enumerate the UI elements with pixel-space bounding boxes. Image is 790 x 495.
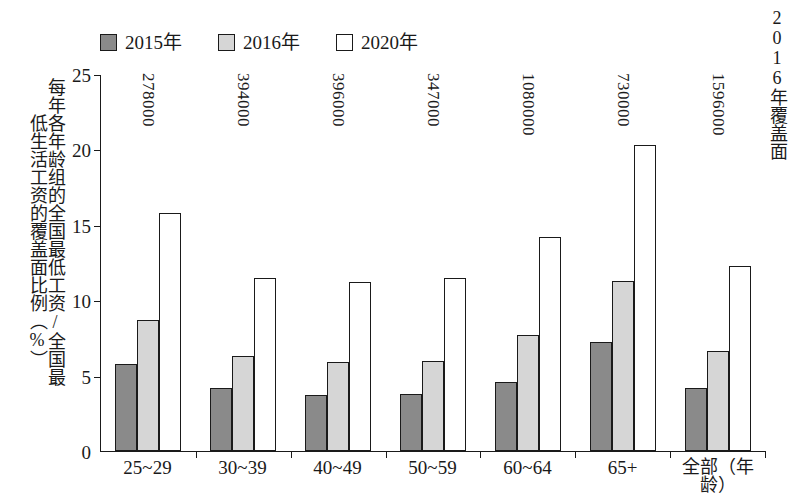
x-axis-tick-label: 40~49 <box>290 458 385 482</box>
x-axis-tick-mark <box>575 451 576 458</box>
bar-group: 1596000 <box>670 75 765 451</box>
bar-2020-25~29 <box>159 213 181 451</box>
y-axis-tick-mark <box>94 301 101 302</box>
group-annotation: 278000 <box>138 73 158 127</box>
bar-2015-全部（年龄） <box>685 388 707 451</box>
legend-swatch-icon-2020 <box>336 34 353 51</box>
bar-group: 1080000 <box>480 75 575 451</box>
bar-2020-全部（年龄） <box>729 266 751 451</box>
x-axis-tick-mark <box>196 451 197 458</box>
group-annotation: 1596000 <box>708 73 728 136</box>
chart-legend: 2015年 2016年 2020年 <box>100 33 418 52</box>
legend-label-2016: 2016年 <box>243 33 300 52</box>
top-right-annotation: 2016年覆盖面 <box>768 8 786 160</box>
bar-2016-60~64 <box>517 335 539 451</box>
y-axis-title-column-left: 低生活工资的覆盖面比例（%） <box>28 114 46 368</box>
bar-2015-30~39 <box>210 388 232 451</box>
y-axis-tick-mark <box>94 377 101 378</box>
group-annotation: 1080000 <box>518 73 538 136</box>
group-annotation: 396000 <box>328 73 348 127</box>
legend-item-2015: 2015年 <box>100 33 182 52</box>
bar-2016-30~39 <box>232 356 254 451</box>
x-axis-tick-label: 60~64 <box>480 458 575 482</box>
x-axis-tick-mark <box>670 451 671 458</box>
x-axis-tick-label: 全部（年龄） <box>670 458 765 482</box>
x-axis-tick-label: 30~39 <box>195 458 290 482</box>
bar-2016-25~29 <box>137 320 159 451</box>
group-annotation: 347000 <box>423 73 443 127</box>
y-axis-tick-labels: 0510152025 <box>55 60 91 466</box>
bar-2016-65+ <box>612 281 634 451</box>
y-axis-tick-label: 5 <box>82 367 92 386</box>
bar-2015-25~29 <box>115 364 137 451</box>
bar-2020-65+ <box>634 145 656 451</box>
bar-group: 730000 <box>575 75 670 451</box>
y-axis-tick-label: 10 <box>72 292 91 311</box>
x-axis-tick-label: 50~59 <box>385 458 480 482</box>
bar-2016-全部（年龄） <box>707 351 729 451</box>
bar-2020-40~49 <box>349 282 371 451</box>
y-axis-tick-mark <box>94 150 101 151</box>
x-axis-tick-mark <box>291 451 292 458</box>
legend-label-2020: 2020年 <box>361 33 418 52</box>
x-axis-tick-mark <box>765 451 766 458</box>
bar-2016-40~49 <box>327 362 349 451</box>
bar-group: 278000 <box>101 75 196 451</box>
x-axis-tick-label: 25~29 <box>100 458 195 482</box>
legend-swatch-icon-2016 <box>218 34 235 51</box>
x-axis-tick-labels: 25~2930~3940~4950~5960~6465+全部（年龄） <box>100 458 765 482</box>
y-axis-tick-mark <box>94 75 101 76</box>
legend-label-2015: 2015年 <box>125 33 182 52</box>
bar-2020-30~39 <box>254 278 276 451</box>
legend-item-2020: 2020年 <box>336 33 418 52</box>
y-axis-tick-label: 25 <box>72 66 91 85</box>
bar-2015-40~49 <box>305 395 327 451</box>
legend-swatch-icon-2015 <box>100 34 117 51</box>
bar-2015-60~64 <box>495 382 517 451</box>
bar-2015-65+ <box>590 342 612 451</box>
bar-2020-50~59 <box>444 278 466 451</box>
bar-2020-60~64 <box>539 237 561 451</box>
y-axis-tick-label: 15 <box>72 216 91 235</box>
bar-group: 347000 <box>386 75 481 451</box>
legend-item-2016: 2016年 <box>218 33 300 52</box>
bar-2016-50~59 <box>422 361 444 451</box>
x-axis-tick-mark <box>386 451 387 458</box>
group-annotation: 394000 <box>233 73 253 127</box>
x-axis-tick-label: 65+ <box>575 458 670 482</box>
x-axis-tick-mark <box>480 451 481 458</box>
bar-groups: 2780003940003960003470001080000730000159… <box>101 75 765 451</box>
y-axis-tick-mark <box>94 226 101 227</box>
y-axis-tick-label: 0 <box>82 443 92 462</box>
bar-group: 396000 <box>291 75 386 451</box>
group-annotation: 730000 <box>613 73 633 127</box>
y-axis-tick-label: 20 <box>72 141 91 160</box>
bar-group: 394000 <box>196 75 291 451</box>
bar-2015-50~59 <box>400 394 422 451</box>
plot-area: 2780003940003960003470001080000730000159… <box>100 75 765 452</box>
